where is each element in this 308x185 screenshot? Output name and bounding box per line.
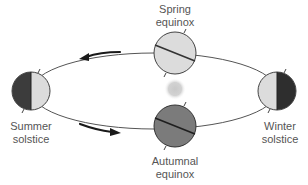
label-winter-solstice: Winter solstice bbox=[250, 120, 308, 146]
orbit-diagram: Spring equinox Summer solstice Winter so… bbox=[0, 0, 308, 185]
sun bbox=[164, 78, 186, 100]
label-autumn-line2: equinox bbox=[140, 168, 210, 181]
label-autumn-line1: Autumnal bbox=[140, 155, 210, 168]
label-autumnal-equinox: Autumnal equinox bbox=[140, 155, 210, 181]
label-summer-solstice: Summer solstice bbox=[1, 120, 61, 146]
globe-summer-solstice bbox=[12, 69, 50, 113]
label-spring-line2: equinox bbox=[145, 16, 205, 29]
label-winter-line2: solstice bbox=[250, 133, 308, 146]
globe-autumnal-equinox bbox=[154, 102, 196, 150]
label-spring-equinox: Spring equinox bbox=[145, 3, 205, 29]
orbit-path bbox=[31, 53, 277, 129]
globe-spring-equinox bbox=[154, 29, 196, 77]
label-spring-line1: Spring bbox=[145, 3, 205, 16]
globe-winter-solstice bbox=[258, 69, 296, 113]
label-summer-line2: solstice bbox=[1, 133, 61, 146]
label-winter-line1: Winter bbox=[250, 120, 308, 133]
label-summer-line1: Summer bbox=[1, 120, 61, 133]
